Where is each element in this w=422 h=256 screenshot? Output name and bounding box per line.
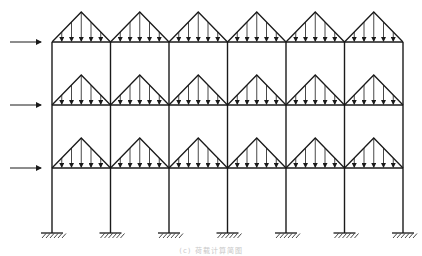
fixed-support-icon bbox=[41, 233, 66, 238]
fixed-support-icon bbox=[334, 233, 359, 238]
fixed-support-icon bbox=[158, 233, 183, 238]
horizontal-loads bbox=[10, 42, 41, 168]
frame-diagram bbox=[0, 0, 422, 256]
columns bbox=[52, 42, 403, 233]
figure-caption: (c) 荷载计算简图 bbox=[0, 245, 422, 255]
fixed-support-icon bbox=[100, 233, 125, 238]
fixed-supports bbox=[41, 233, 417, 238]
fixed-support-icon bbox=[392, 233, 417, 238]
fixed-support-icon bbox=[275, 233, 300, 238]
fixed-support-icon bbox=[217, 233, 242, 238]
